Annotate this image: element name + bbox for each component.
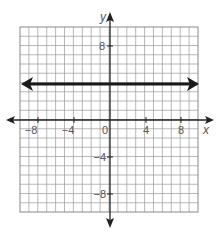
x-tick-label-8: 8 — [178, 124, 184, 136]
y-tick-label-neg8: −8 — [93, 188, 106, 200]
origin-label: 0 — [102, 124, 108, 136]
x-axis-label: x — [202, 123, 210, 137]
y-tick-label-8: 8 — [99, 40, 105, 52]
y-tick-label-neg4: −4 — [93, 151, 106, 163]
x-tick-label-4: 4 — [143, 124, 149, 136]
x-tick-label-neg8: −8 — [25, 124, 38, 136]
x-tick-label-neg4: −4 — [62, 124, 75, 136]
y-axis-label: y — [99, 10, 107, 24]
coordinate-plane: −8 −4 0 4 8 8 −4 −8 x y — [0, 0, 216, 232]
